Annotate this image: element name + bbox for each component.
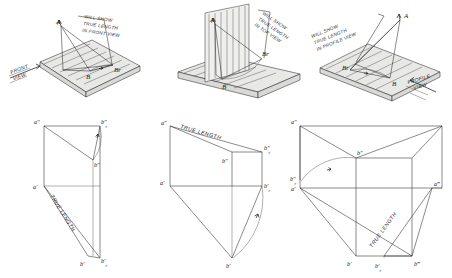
point-label-br: Br	[342, 64, 349, 72]
point-label-a-prime: a′	[291, 185, 296, 192]
point-label-b: B	[392, 80, 397, 88]
panel-bottom-left: TRUE LENGTH a″ b″ r b″ a′ b′ b′ r	[33, 118, 108, 268]
ortho-lines-bottom-left	[44, 126, 101, 258]
view-label-front: FRONT VIEW	[9, 63, 40, 83]
panel-top-left: WILL SHOW TRUE LENGTH IN FRONT VIEW FRON…	[9, 14, 140, 97]
point-label-b-prime: b′	[347, 260, 352, 267]
svg-text:r: r	[269, 150, 271, 155]
point-label-b-double-prime: b″	[94, 161, 100, 168]
caption-top-middle: WILL SHOW TRUE LENGTH IN TOP VIEW	[254, 11, 294, 47]
point-label-a: A	[403, 12, 409, 20]
point-label-a-triple-prime: a‴	[434, 180, 440, 187]
point-label-b-double-prime-r: b″ r	[101, 118, 108, 129]
technical-drawing-figure: WILL SHOW TRUE LENGTH IN FRONT VIEW FRON…	[0, 0, 452, 278]
point-label-a: A	[209, 16, 215, 24]
point-label-b: B	[222, 83, 227, 91]
point-label-b-double-prime-r: b″ r	[264, 144, 271, 155]
panel-bottom-right: TRUE LENGTH a″ b″ b″ r a′ a‴ b′ b′ r b‴	[290, 118, 442, 273]
point-label-a-prime: a′	[160, 179, 165, 186]
ortho-lines-bottom-middle	[170, 126, 263, 258]
svg-text:r: r	[269, 188, 271, 193]
point-label-b-double-prime: b″	[357, 149, 363, 156]
true-length-label-bottom-left: TRUE LENGTH	[49, 193, 77, 232]
point-label-a-prime: a′	[33, 183, 38, 190]
svg-text:r: r	[106, 124, 108, 129]
ortho-lines-bottom-right	[300, 126, 442, 258]
point-label-b-prime-r: b′ r	[264, 182, 271, 193]
point-label-b-prime-r: b′ r	[375, 262, 382, 273]
point-label-b-prime: b′	[226, 262, 231, 269]
ground-plane-top-left	[40, 40, 140, 97]
point-label-br: Br	[114, 66, 121, 74]
caption-top-left: WILL SHOW TRUE LENGTH IN FRONT VIEW	[82, 14, 123, 38]
caption-top-right: WILL SHOW TRUE LENGTH IN PROFILE VIEW	[311, 18, 358, 52]
point-label-b-prime-r: b′ r	[101, 257, 108, 268]
point-label-a-double-prime: a″	[34, 118, 40, 125]
point-label-b: B	[86, 73, 91, 81]
panel-top-middle: WILL SHOW TRUE LENGTH IN TOP VIEW A B Br	[178, 4, 300, 98]
point-label-b-double-prime-r: b″ r	[290, 175, 297, 186]
point-label-br: Br	[262, 50, 269, 58]
svg-text:r: r	[106, 263, 108, 268]
point-label-a: A	[55, 18, 61, 26]
point-label-a-double-prime: a″	[291, 118, 297, 125]
point-label-b-triple-prime: b‴	[414, 260, 420, 267]
point-label-a-double-prime: a″	[161, 119, 167, 126]
svg-text:r: r	[380, 268, 382, 273]
panel-bottom-middle: TRUE LENGTH a″ b″ b″ r a′ b′ r b′	[160, 119, 271, 269]
true-length-text: TRUE LENGTH	[49, 193, 77, 232]
panel-top-right: WILL SHOW TRUE LENGTH IN PROFILE VIEW PR…	[311, 12, 440, 101]
point-label-b-prime: b′	[80, 260, 85, 267]
point-label-b-double-prime: b″	[222, 157, 228, 164]
true-length-label-bottom-middle: TRUE LENGTH	[180, 123, 222, 140]
true-length-text: TRUE LENGTH	[180, 123, 222, 140]
